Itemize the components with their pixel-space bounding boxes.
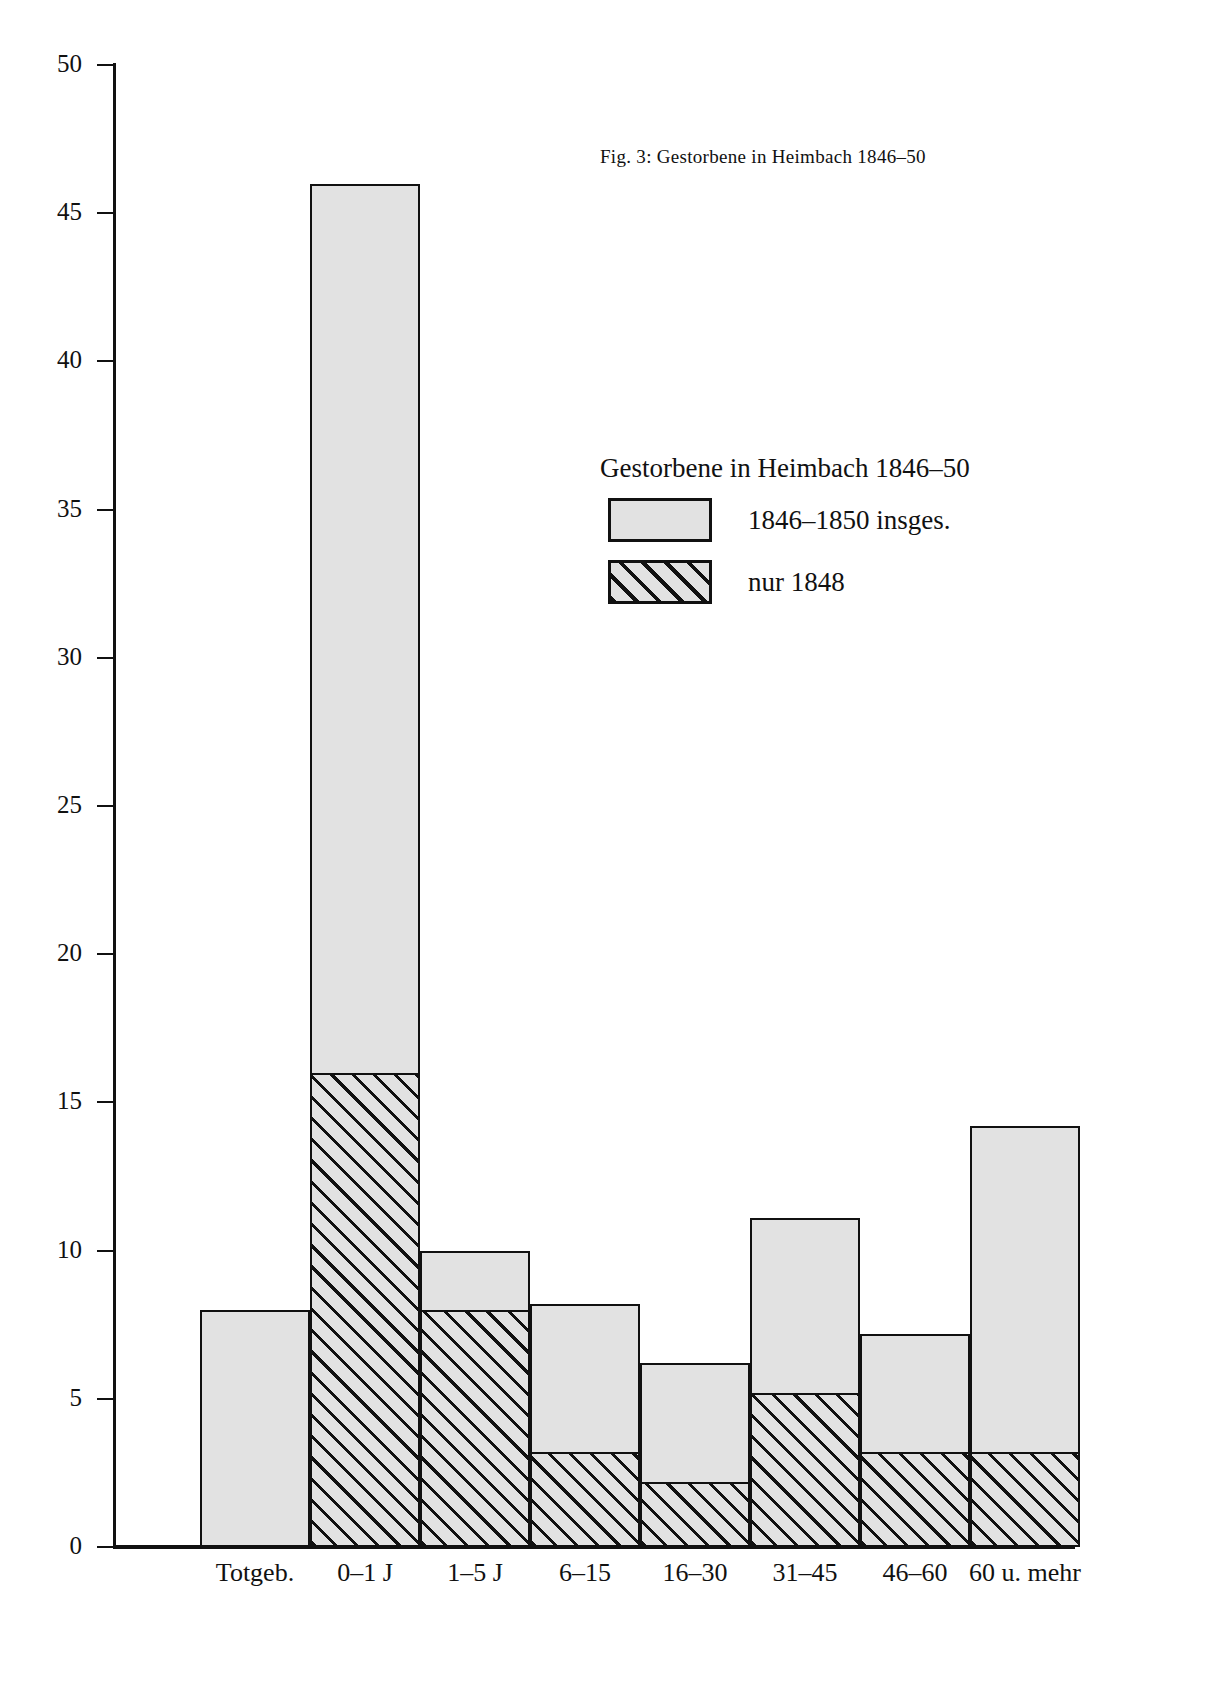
legend-swatch-diagonal-hatch bbox=[608, 560, 712, 604]
y-tick-label-10: 10 bbox=[12, 1237, 82, 1262]
y-tick-mark-10 bbox=[97, 1250, 116, 1252]
y-tick-mark-35 bbox=[97, 509, 116, 511]
bar-1848-7 bbox=[970, 1452, 1080, 1547]
bar-1848-2 bbox=[420, 1310, 530, 1547]
y-tick-label-5: 5 bbox=[12, 1385, 82, 1410]
y-tick-mark-50 bbox=[97, 64, 116, 66]
bar-1848-1 bbox=[310, 1073, 420, 1547]
y-tick-mark-5 bbox=[97, 1398, 116, 1400]
legend-entry-1: nur 1848 bbox=[600, 560, 1030, 608]
y-tick-label-35: 35 bbox=[12, 496, 82, 521]
y-tick-mark-20 bbox=[97, 953, 116, 955]
legend-entries: 1846–1850 insges.nur 1848 bbox=[600, 498, 1030, 608]
legend-title: Gestorbene in Heimbach 1846–50 bbox=[600, 452, 1030, 484]
bar-total-0 bbox=[200, 1310, 310, 1547]
y-tick-mark-25 bbox=[97, 805, 116, 807]
y-tick-label-45: 45 bbox=[12, 199, 82, 224]
legend-label-1: nur 1848 bbox=[748, 562, 845, 602]
y-tick-label-50: 50 bbox=[12, 51, 82, 76]
y-tick-mark-40 bbox=[97, 360, 116, 362]
y-tick-mark-30 bbox=[97, 657, 116, 659]
legend-swatch-solid-grey bbox=[608, 498, 712, 542]
x-axis-label-7: 60 u. mehr bbox=[930, 1558, 1120, 1588]
bar-1848-4 bbox=[640, 1482, 750, 1547]
y-tick-mark-15 bbox=[97, 1101, 116, 1103]
y-tick-label-25: 25 bbox=[12, 792, 82, 817]
y-tick-label-15: 15 bbox=[12, 1088, 82, 1113]
chart-legend: Gestorbene in Heimbach 1846–50 1846–1850… bbox=[600, 452, 1030, 608]
y-tick-mark-0 bbox=[97, 1546, 116, 1548]
legend-entry-0: 1846–1850 insges. bbox=[600, 498, 1030, 546]
bar-1848-3 bbox=[530, 1452, 640, 1547]
y-tick-label-40: 40 bbox=[12, 347, 82, 372]
y-tick-label-30: 30 bbox=[12, 644, 82, 669]
figure-page: Fig. 3: Gestorbene in Heimbach 1846–50 5… bbox=[0, 0, 1213, 1684]
bar-chart: 50454035302520151050 Totgeb.0–1 J1–5 J6–… bbox=[0, 0, 1213, 1684]
bar-1848-5 bbox=[750, 1393, 860, 1547]
bar-1848-6 bbox=[860, 1452, 970, 1547]
y-tick-mark-45 bbox=[97, 212, 116, 214]
legend-label-0: 1846–1850 insges. bbox=[748, 500, 951, 540]
y-tick-label-0: 0 bbox=[12, 1533, 82, 1558]
y-tick-label-20: 20 bbox=[12, 940, 82, 965]
